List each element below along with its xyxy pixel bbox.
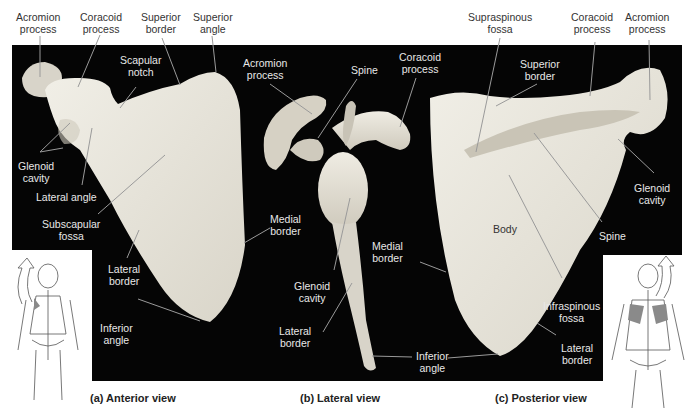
label-b-glenoid-cavity: Glenoidcavity xyxy=(294,280,330,304)
label-a-scapular-notch: Scapularnotch xyxy=(120,54,161,78)
label-c-glenoid-cavity: Glenoidcavity xyxy=(634,182,670,206)
label-b-lateral-border: Lateralborder xyxy=(279,325,311,349)
label-a-lateral-angle: Lateral angle xyxy=(36,191,97,203)
label-a-superior-border: Superiorborder xyxy=(141,11,181,35)
label-b-spine: Spine xyxy=(351,64,378,76)
caption-anterior-view: (a) Anterior view xyxy=(90,392,176,404)
anterior-skeleton-icon xyxy=(18,258,78,400)
caption-lateral-view: (b) Lateral view xyxy=(300,392,380,404)
label-a-superior-angle: Superiorangle xyxy=(193,11,233,35)
label-c-body: Body xyxy=(493,223,517,235)
label-a-lateral-border: Lateralborder xyxy=(108,263,140,287)
label-a-inferior-angle: Inferiorangle xyxy=(100,322,133,346)
label-b-acromion-process: Acromionprocess xyxy=(243,57,287,81)
label-a-subscapular-fossa: Subscapularfossa xyxy=(42,218,100,242)
label-c-supraspinous-fossa: Supraspinousfossa xyxy=(468,11,532,35)
label-c-infraspinous-fossa: Infraspinousfossa xyxy=(543,300,600,324)
label-b-coracoid-process: Coracoidprocess xyxy=(399,51,441,75)
label-c-medial-border: Medialborder xyxy=(372,240,403,264)
label-c-superior-border: Superiorborder xyxy=(520,58,560,82)
label-a-coracoid-process: Coracoidprocess xyxy=(80,11,122,35)
posterior-skeleton-icon xyxy=(612,256,684,408)
label-c-spine: Spine xyxy=(599,230,626,242)
label-a-glenoid-cavity: Glenoidcavity xyxy=(18,160,54,184)
label-c-lateral-border: Lateralborder xyxy=(561,342,593,366)
label-b-inferior-angle: Inferiorangle xyxy=(416,350,449,374)
label-c-acromion-process: Acromionprocess xyxy=(625,11,669,35)
label-c-coracoid-process: Coracoidprocess xyxy=(571,11,613,35)
label-a-medial-border: Medialborder xyxy=(270,213,301,237)
label-a-acromion-process: Acromionprocess xyxy=(16,11,60,35)
caption-posterior-view: (c) Posterior view xyxy=(495,392,587,404)
